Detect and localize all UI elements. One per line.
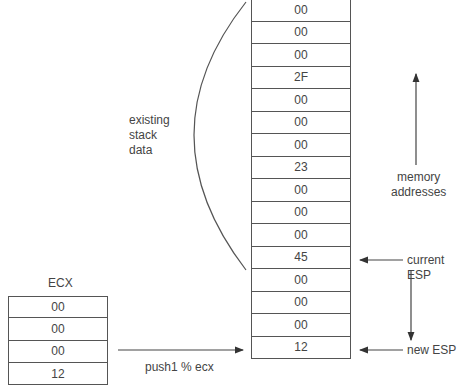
stack-cell: 00 xyxy=(251,314,351,337)
stack-cell: 00 xyxy=(251,22,351,45)
stack-cell: 00 xyxy=(251,0,351,22)
stack-cell-new-esp: 12 xyxy=(251,337,351,360)
label-line: stack xyxy=(129,128,170,143)
stack-cell: 00 xyxy=(251,269,351,292)
ecx-cell: 00 xyxy=(8,318,108,340)
label-line: addresses xyxy=(391,185,446,200)
current-esp-label: current ESP xyxy=(407,253,471,283)
new-esp-label: new ESP xyxy=(407,343,456,358)
stack-cell: 23 xyxy=(251,157,351,180)
ecx-title: ECX xyxy=(48,276,73,291)
stack-cell: 00 xyxy=(251,44,351,67)
label-line: existing xyxy=(129,113,170,128)
stack-cell: 00 xyxy=(251,202,351,225)
ecx-cell: 12 xyxy=(8,363,108,385)
stack-cell: 00 xyxy=(251,112,351,135)
push-instruction-label: push1 % ecx xyxy=(145,360,214,375)
existing-data-brace-arc xyxy=(194,2,246,270)
stack-cell-current-esp: 45 xyxy=(251,247,351,270)
stack-memory: 00 00 00 2F 00 00 00 23 00 00 00 45 00 0… xyxy=(251,0,351,359)
stack-cell: 00 xyxy=(251,89,351,112)
label-line: data xyxy=(129,143,170,158)
stack-cell: 2F xyxy=(251,67,351,90)
existing-stack-data-label: existing stack data xyxy=(129,113,170,158)
stack-cell: 00 xyxy=(251,134,351,157)
memory-addresses-label: memory addresses xyxy=(391,170,446,200)
stack-cell: 00 xyxy=(251,224,351,247)
ecx-cell: 00 xyxy=(8,341,108,363)
ecx-register: 00 00 00 12 xyxy=(8,296,108,385)
stack-cell: 00 xyxy=(251,179,351,202)
label-line: memory xyxy=(391,170,446,185)
stack-cell: 00 xyxy=(251,292,351,315)
ecx-cell: 00 xyxy=(8,296,108,318)
